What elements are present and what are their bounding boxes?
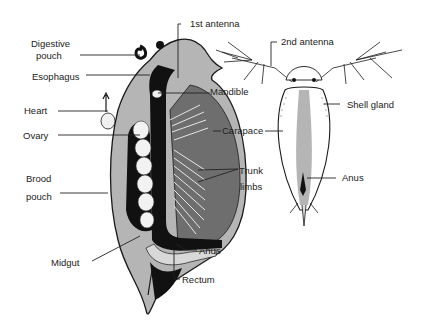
digestive-pouch-shape <box>136 46 146 58</box>
label-mandible: Mandible <box>210 86 249 97</box>
label-digestive-pouch-line1: Digestive <box>31 38 70 49</box>
label-shell-gland: Shell gland <box>347 99 394 110</box>
label-brood-pouch-line2: pouch <box>26 191 52 202</box>
label-digestive-pouch-line2: pouch <box>36 50 62 61</box>
dorsal-eye-left <box>292 78 296 82</box>
label-rectum: Rectum <box>182 274 215 285</box>
mandible-shape <box>152 90 162 98</box>
label-heart: Heart <box>24 105 48 116</box>
label-carapace: Carapace <box>222 125 263 136</box>
compound-eye <box>156 41 164 49</box>
dorsal-tail-spine <box>302 205 306 226</box>
label-anus-lateral: Anus <box>199 245 221 256</box>
label-anus-dorsal: Anus <box>342 172 364 183</box>
label-esophagus: Esophagus <box>32 71 80 82</box>
label-trunk-limbs-line1: Trunk <box>239 165 263 176</box>
claw-left <box>290 203 298 213</box>
label-midgut: Midgut <box>51 257 80 268</box>
label-trunk-limbs-line2: limbs <box>240 181 262 192</box>
heart-shape <box>101 113 115 129</box>
label-second-antenna: 2nd antenna <box>281 36 335 47</box>
heart-arrow-icon <box>103 93 109 112</box>
label-ovary: Ovary <box>23 130 49 141</box>
label-brood-pouch-line1: Brood <box>26 173 51 184</box>
claw-right <box>310 203 318 213</box>
daphnia-diagram: 1st antenna Digestive pouch Esophagus He… <box>0 0 424 325</box>
label-first-antenna: 1st antenna <box>190 18 240 29</box>
dorsal-eye-right <box>312 78 316 82</box>
dorsal-head <box>286 67 322 81</box>
